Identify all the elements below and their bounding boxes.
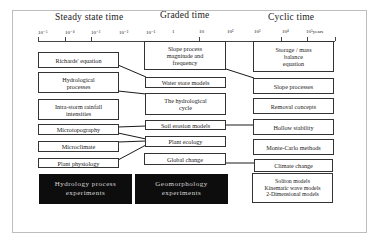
- box-slope-process-magnitude: Slope process magnitude and frequency: [144, 41, 226, 70]
- axis-tick: [38, 37, 39, 41]
- axis-tick-label: 10⁵years: [306, 29, 323, 34]
- hydrology-process-experiments: Hydrology process experiments: [39, 174, 132, 204]
- box-soil-erosion-models: Soil erosion models: [145, 120, 226, 130]
- box-microclimate: Microclimate: [38, 141, 119, 152]
- header-steady-state-time: Steady state time: [55, 12, 123, 22]
- geomorphology-experiments: Geomorphology experiments: [135, 174, 228, 204]
- box-microtopography: Microtopography: [38, 124, 119, 135]
- box-removal-concepts: Removal concepts: [253, 98, 334, 114]
- box-climate-change: Climate change: [254, 159, 333, 172]
- box-richards-equation: Richards' equation: [38, 52, 119, 68]
- header-cyclic-time: Cyclic time: [268, 12, 314, 22]
- axis-tick-label: 10⁻³: [91, 29, 100, 35]
- box-soliton-kinematic-2d-models: Soliton models Kinematic wave models 2-D…: [252, 173, 333, 203]
- box-global-change: Global change: [144, 153, 226, 165]
- box-storage-mass-balance: Storage / mass balance equation: [253, 41, 334, 72]
- box-plant-physiology: Plant physiology: [38, 158, 119, 168]
- axis-tick-label: 10⁻²: [119, 29, 128, 35]
- box-hollow-stability: Hollow stability: [253, 119, 334, 135]
- axis-tick-label: 1: [172, 29, 175, 34]
- axis-tick-label: 10²: [227, 29, 234, 34]
- box-slope-processes: Slope processes: [253, 78, 334, 94]
- box-intra-storm-rainfall: Intra-storm rainfall intensities: [38, 99, 119, 120]
- box-monte-carlo-methods: Monte-Carlo methods: [253, 139, 334, 155]
- box-hydrological-cycle: The hydrological cycle: [145, 93, 226, 115]
- axis-tick: [65, 37, 66, 41]
- axis-tick-label: 10: [199, 29, 204, 34]
- box-water-store-models: Water store models: [145, 77, 226, 88]
- axis-tick-label: 10³: [254, 29, 261, 34]
- box-plant-ecology: Plant ecology: [145, 136, 226, 147]
- axis-tick-label: 10⁻⁴: [65, 29, 74, 35]
- axis-tick-label: 10⁴: [282, 29, 289, 34]
- axis-tick: [335, 37, 336, 41]
- box-hydrological-processes: Hydrological processes: [38, 72, 119, 93]
- axis-tick: [91, 37, 92, 41]
- header-graded-time: Graded time: [160, 10, 209, 20]
- axis-tick-label: 10⁻¹: [146, 29, 155, 35]
- axis-tick-label: 10⁻⁵: [38, 29, 47, 35]
